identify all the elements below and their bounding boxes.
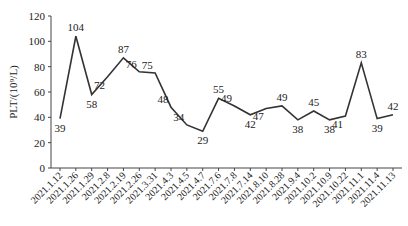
y-tick-label: 80	[34, 61, 46, 73]
line-chart: 020406080100120 2021.1.122021.1.262021.1…	[0, 0, 408, 226]
data-label: 39	[55, 122, 67, 134]
y-tick-label: 0	[40, 162, 46, 174]
y-tick-label: 40	[34, 111, 46, 123]
data-label: 39	[372, 122, 384, 134]
data-label: 41	[332, 118, 343, 130]
data-label: 38	[292, 123, 304, 135]
y-axis: 020406080100120	[29, 10, 52, 174]
plt-series-line	[60, 36, 393, 131]
data-label: 75	[142, 59, 154, 71]
data-label: 72	[94, 79, 105, 91]
data-label: 48	[158, 93, 170, 105]
data-label: 83	[356, 48, 368, 60]
data-label: 76	[126, 58, 138, 70]
y-tick-label: 60	[34, 86, 46, 98]
data-label: 42	[388, 100, 399, 112]
data-label: 29	[197, 134, 209, 146]
x-axis: 2021.1.122021.1.262021.1.292021.2.82021.…	[28, 168, 402, 209]
data-label: 45	[308, 96, 320, 108]
data-labels: 3910458728776754834295549424749384538418…	[55, 21, 399, 146]
y-tick-label: 100	[29, 35, 46, 47]
data-label: 47	[253, 110, 265, 122]
data-label: 58	[86, 98, 98, 110]
data-label: 87	[118, 43, 130, 55]
y-tick-label: 120	[29, 10, 46, 22]
y-axis-label: PLT/(10⁹/L)	[7, 65, 20, 119]
data-label: 34	[173, 111, 185, 123]
data-label: 49	[277, 91, 289, 103]
y-tick-label: 20	[34, 137, 46, 149]
data-label: 104	[68, 21, 85, 33]
data-label: 49	[221, 92, 233, 104]
